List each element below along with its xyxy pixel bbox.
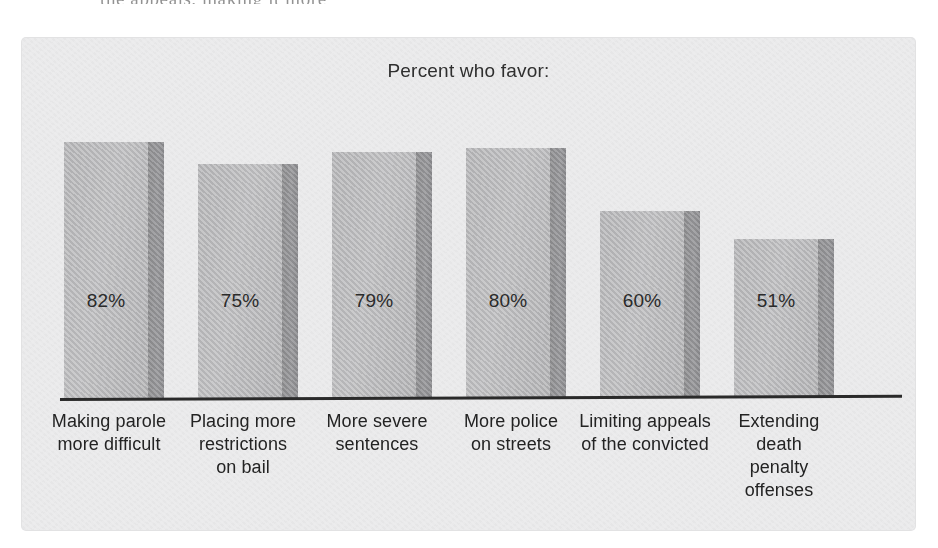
category-label: Placing morerestrictionson bail — [170, 410, 316, 479]
scan-top-text-fragment: the appeals, making it more — [100, 0, 560, 4]
bar[interactable] — [466, 148, 566, 398]
bar-group: 80% — [466, 148, 566, 398]
category-label-line: More severe — [304, 410, 450, 433]
bar-side-face — [684, 211, 700, 398]
category-label-line: Making parole — [36, 410, 182, 433]
bar-value-label: 75% — [198, 290, 282, 312]
x-axis-category-labels: Making parolemore difficultPlacing morer… — [56, 410, 906, 522]
bar-value-label: 80% — [466, 290, 550, 312]
bar[interactable] — [734, 239, 834, 398]
bar-value-label: 79% — [332, 290, 416, 312]
bar-side-face — [416, 152, 432, 398]
category-label-line: sentences — [304, 433, 450, 456]
category-label: Making parolemore difficult — [36, 410, 182, 456]
category-label-line: death — [706, 433, 852, 456]
category-label: Extendingdeathpenaltyoffenses — [706, 410, 852, 502]
category-label-line: restrictions — [170, 433, 316, 456]
bar-group: 75% — [198, 164, 298, 398]
category-label-line: on streets — [438, 433, 584, 456]
bar-group: 82% — [64, 142, 164, 398]
category-label-line: Extending — [706, 410, 852, 433]
bar[interactable] — [64, 142, 164, 398]
chart-panel: Percent who favor: 82%75%79%80%60%51% Ma… — [22, 38, 915, 530]
bar-value-label: 51% — [734, 290, 818, 312]
bar-group: 51% — [734, 239, 834, 398]
bar-front-face — [332, 152, 416, 398]
bar-front-face — [64, 142, 148, 398]
bar-group: 79% — [332, 152, 432, 398]
bar-side-face — [282, 164, 298, 398]
plot-area: 82%75%79%80%60%51% — [64, 86, 876, 398]
category-label-line: of the convicted — [572, 433, 718, 456]
category-label-line: penalty — [706, 456, 852, 479]
category-label-line: Limiting appeals — [572, 410, 718, 433]
bar[interactable] — [198, 164, 298, 398]
chart-title: Percent who favor: — [22, 60, 915, 82]
bar[interactable] — [332, 152, 432, 398]
category-label: More severesentences — [304, 410, 450, 456]
category-label-line: on bail — [170, 456, 316, 479]
bar-value-label: 82% — [64, 290, 148, 312]
bar-side-face — [818, 239, 834, 398]
bar-front-face — [734, 239, 818, 398]
category-label-line: offenses — [706, 479, 852, 502]
category-label-line: more difficult — [36, 433, 182, 456]
category-label-line: Placing more — [170, 410, 316, 433]
bar-side-face — [550, 148, 566, 398]
category-label: More policeon streets — [438, 410, 584, 456]
bar-front-face — [466, 148, 550, 398]
category-label: Limiting appealsof the convicted — [572, 410, 718, 456]
bar-value-label: 60% — [600, 290, 684, 312]
bar-front-face — [198, 164, 282, 398]
bar-group: 60% — [600, 211, 700, 398]
bar-side-face — [148, 142, 164, 398]
category-label-line: More police — [438, 410, 584, 433]
